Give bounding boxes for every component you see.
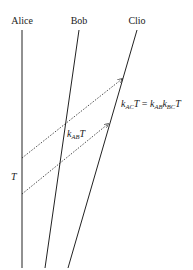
bob-worldline	[45, 30, 79, 268]
k-calculus-diagram: Alice Bob Clio T kABT kACT = kABkBCT	[0, 0, 193, 270]
bob-interval-label: kABT	[67, 128, 86, 140]
alice-label: Alice	[11, 15, 33, 26]
clio-worldline	[68, 30, 137, 268]
bob-label: Bob	[71, 15, 88, 26]
signal-upper	[22, 79, 122, 158]
signal-lower	[22, 124, 108, 194]
clio-interval-equation: kACT = kABkBCT	[121, 98, 182, 110]
interval-t-label: T	[11, 171, 18, 182]
clio-label: Clio	[128, 15, 145, 26]
